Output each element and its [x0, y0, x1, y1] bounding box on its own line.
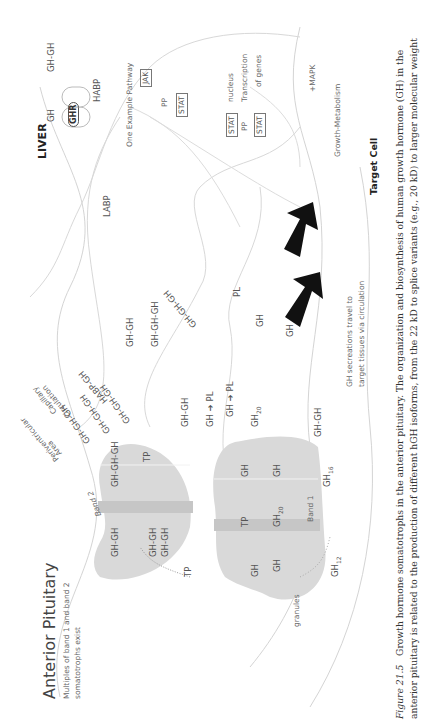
liver-title: LIVER [36, 123, 49, 159]
band2-gh-gh-a: GH-GH [110, 528, 120, 557]
band2-gh-gh-b: GH-GH [148, 528, 158, 557]
liver-gh-label: GH [46, 109, 56, 122]
jak-box: JAK [140, 69, 152, 87]
mol-gh-gh-b: GH-GH [180, 398, 190, 427]
gh16-label: GH16 [322, 466, 334, 487]
mapk-label: +MAPK [308, 65, 317, 92]
band1-gh20: GH20 [272, 506, 284, 527]
mol-pl-a: PL [232, 287, 242, 297]
band2-gh-gh-c: GH-GH [160, 528, 170, 557]
figure-caption-line-1: Figure 21.5 Growth hormone somatotrophs … [394, 50, 405, 719]
band1-gh-b: GH [272, 464, 282, 477]
stat-dimer-pp: PP [240, 122, 249, 131]
band1-gh-d: GH [272, 559, 282, 572]
target-cell-title: Target Cell [368, 138, 379, 195]
ghr-receptor: GHR [68, 102, 79, 127]
mol-gh-gh-a: GH-GH [125, 318, 135, 347]
mol-gh-b: GH [285, 324, 295, 337]
stat-dimer-bottom: STAT [254, 113, 266, 137]
band1-gh-c: GH [250, 564, 260, 577]
gh-to-pl-a: GH ➜ PL [205, 392, 215, 427]
band2-gh-gh-gh: GH-GH-GH [110, 441, 120, 487]
pathway-title: One Example Pathway [125, 63, 134, 147]
mol-gh20: GH20 [250, 406, 262, 427]
mol-gh-a: GH [255, 314, 265, 327]
gh12-label: GH12 [330, 556, 342, 577]
labp-label: LABP [102, 195, 112, 217]
band1-tp: TP [240, 517, 250, 527]
anterior-pituitary-title: Anterior Pituitary [40, 563, 59, 699]
figure-caption-line-2: anterior pituitary is related to the pro… [408, 38, 419, 719]
anterior-pituitary-subtitle-1: Multiples of band 1 and band 2 [62, 582, 71, 699]
granules-label: granules [292, 594, 301, 627]
gh-to-pl-b: GH ➜ PL [225, 382, 235, 417]
growth-metabolism-label: Growth-Metabolism [333, 84, 342, 157]
mol-gh-gh-c: GH-GH [313, 408, 323, 437]
transcription-label-1: Transcription [240, 54, 249, 102]
phospho-label: PP [160, 98, 169, 107]
mol-gh-gh-gh-a: GH-GH-GH [150, 301, 160, 347]
figure-page: Anterior Pituitary Multiples of band 1 a… [0, 0, 432, 727]
habp-label: HABP [92, 79, 102, 102]
band2-tp-bottom: TP [183, 567, 193, 577]
liver-gh-gh-label: GH-GH [46, 43, 56, 72]
stat-dimer-top: STAT [226, 113, 238, 137]
secretions-label-1: GH secreations travel to [345, 296, 354, 387]
transcription-label-2: of genes [254, 55, 263, 87]
anterior-pituitary-subtitle-2: somatotrophs exist [73, 627, 82, 699]
stat-box: STAT [176, 93, 188, 117]
nucleus-label: nucleus [226, 73, 235, 102]
band2-tp-top: TP [142, 452, 152, 462]
band1-label: Band 1 [306, 496, 315, 522]
secretions-label-2: target tissues via circulation [357, 281, 366, 387]
band1-gh-a: GH [240, 464, 250, 477]
